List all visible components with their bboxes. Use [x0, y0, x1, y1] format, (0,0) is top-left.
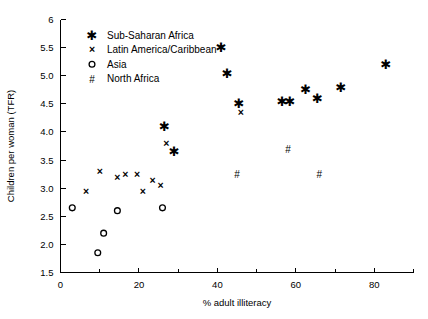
data-point-2-3: [114, 208, 120, 214]
data-point-1-8: ×: [163, 137, 169, 149]
axis-spines: [61, 20, 414, 273]
legend-marker-circle-icon: [89, 61, 95, 67]
data-point-2-4: [160, 205, 166, 211]
y-tick-label-0: 1.5: [40, 267, 53, 278]
legend-label: North Africa: [107, 73, 160, 84]
data-point-0-9: ✱: [335, 80, 346, 95]
legend-item-sub-saharan-africa: ✱Sub-Saharan Africa: [87, 28, 195, 43]
legend-label: Latin America/Caribbean: [107, 44, 217, 55]
x-axis-title: % adult illiteracy: [203, 297, 272, 308]
series-asia: [69, 205, 165, 256]
scatter-chart-figure: 1.52.02.53.03.54.04.55.05.56020406080 % …: [0, 0, 428, 319]
data-point-3-0: #: [234, 169, 240, 180]
legend-label: Asia: [107, 59, 127, 70]
y-tick-label-2: 2.5: [40, 211, 53, 222]
y-tick-label-6: 4.5: [40, 98, 53, 109]
data-point-3-2: #: [317, 169, 323, 180]
chart-legend: ✱Sub-Saharan Africa×Latin America/Caribb…: [87, 28, 217, 85]
data-point-2-1: [95, 250, 101, 256]
chart-canvas: 1.52.02.53.03.54.04.55.05.56020406080 % …: [0, 0, 428, 319]
y-tick-label-3: 3.0: [40, 183, 53, 194]
data-point-0-1: ✱: [169, 144, 180, 159]
axes: [61, 20, 414, 273]
data-point-0-6: ✱: [284, 94, 295, 109]
legend-item-latin-america-caribbean: ×Latin America/Caribbean: [89, 43, 217, 55]
data-point-0-2: ✱: [216, 40, 227, 55]
data-point-0-8: ✱: [312, 91, 323, 106]
data-point-0-10: ✱: [381, 57, 392, 72]
legend-marker-x-icon: ×: [89, 43, 95, 55]
data-point-0-0: ✱: [159, 119, 170, 134]
y-axis-title: Children per woman (TFR): [5, 90, 16, 202]
x-tick-label-1: 20: [134, 279, 145, 290]
data-point-1-4: ×: [134, 168, 140, 180]
y-tick-label-8: 5.5: [40, 42, 53, 53]
data-point-1-0: ×: [83, 185, 89, 197]
series-sub-saharan-africa: ✱✱✱✱✱✱✱✱✱✱✱: [159, 40, 392, 159]
x-tick-label-3: 60: [291, 279, 302, 290]
data-point-0-7: ✱: [300, 82, 311, 97]
data-point-2-2: [101, 230, 107, 236]
data-point-1-3: ×: [122, 168, 128, 180]
data-point-1-2: ×: [114, 171, 120, 183]
y-tick-label-1: 2.0: [40, 239, 53, 250]
legend-item-asia: Asia: [89, 59, 127, 70]
data-point-1-5: ×: [140, 185, 146, 197]
x-tick-label-0: 0: [58, 279, 63, 290]
data-point-2-0: [69, 205, 75, 211]
legend-marker-star-icon: ✱: [87, 28, 98, 43]
series-north-africa: ###: [234, 144, 322, 180]
y-tick-label-7: 5.0: [40, 70, 53, 81]
y-tick-label-5: 4.0: [40, 126, 53, 137]
data-point-1-6: ×: [150, 174, 156, 186]
legend-item-north-africa: #North Africa: [89, 73, 159, 84]
data-point-3-1: #: [285, 144, 291, 155]
data-point-1-9: ×: [238, 106, 244, 118]
data-point-1-1: ×: [97, 165, 103, 177]
y-tick-label-9: 6: [48, 14, 53, 25]
tick-marks: [61, 20, 414, 273]
x-tick-label-4: 80: [369, 279, 380, 290]
legend-marker-hash-icon: #: [89, 74, 95, 85]
data-point-1-7: ×: [157, 179, 163, 191]
y-tick-label-4: 3.5: [40, 155, 53, 166]
data-point-0-3: ✱: [222, 66, 233, 81]
x-tick-label-2: 40: [212, 279, 223, 290]
legend-label: Sub-Saharan Africa: [107, 30, 194, 41]
